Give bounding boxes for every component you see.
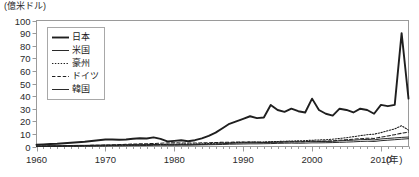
y-axis-tick-label: 100 [15,16,31,27]
y-axis-tick-label: 50 [20,79,31,90]
x-axis-unit-label: (年) [386,154,402,165]
y-axis-tick-label: 40 [20,91,31,102]
y-axis-tick-label: 60 [20,66,31,77]
y-axis-tick-label: 80 [20,41,31,52]
legend-item-label: 日本 [72,31,90,42]
y-axis-tick-label: 30 [20,104,31,115]
legend-item-label: ドイツ [72,71,99,81]
x-axis-tick-label: 1980 [164,154,185,165]
y-axis-ticks: 0102030405060708090100 [15,16,37,153]
legend-item-label: 米国 [72,44,90,55]
y-axis-tick-label: 0 [25,142,30,153]
chart-legend: 日本米国豪州ドイツ韓国 [48,28,105,100]
x-axis-tick-label: 2000 [301,154,322,165]
y-axis-tick-label: 10 [20,129,31,140]
y-axis-tick-label: 70 [20,53,31,64]
x-axis-tick-label: 1970 [95,154,116,165]
x-axis-tick-label: 1960 [26,154,47,165]
x-axis-ticks: 196019701980199020002010 [26,147,410,165]
line-chart: (億米ドル) 0102030405060708090100 1960197019… [0,0,419,177]
y-axis-tick-label: 90 [20,28,31,39]
y-axis-tick-label: 20 [20,116,31,127]
chart-plot-area: 0102030405060708090100 19601970198019902… [0,0,419,177]
legend-item-label: 韓国 [72,84,90,94]
legend-item-label: 豪州 [72,57,90,68]
x-axis-tick-label: 1990 [233,154,254,165]
